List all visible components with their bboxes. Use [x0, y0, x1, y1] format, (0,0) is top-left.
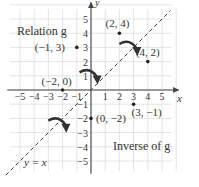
svg-text:−1: −1 — [77, 99, 88, 110]
svg-text:1: 1 — [83, 71, 88, 82]
inverse-of-g-label: Inverse of g — [113, 139, 170, 153]
svg-text:5: 5 — [160, 91, 165, 102]
svg-text:−2: −2 — [77, 113, 88, 124]
svg-text:−5: −5 — [77, 156, 88, 167]
svg-text:4: 4 — [145, 91, 150, 102]
svg-text:3: 3 — [131, 91, 136, 102]
svg-text:−5: −5 — [15, 91, 26, 102]
svg-text:−4: −4 — [29, 91, 40, 102]
svg-text:(3, −1): (3, −1) — [132, 106, 162, 119]
svg-text:−2: −2 — [57, 91, 68, 102]
svg-text:x: x — [176, 92, 182, 104]
svg-text:−4: −4 — [77, 142, 88, 153]
svg-text:2: 2 — [117, 91, 122, 102]
svg-text:(2, 4): (2, 4) — [105, 17, 129, 30]
svg-text:(−2, 0): (−2, 0) — [42, 75, 72, 88]
svg-text:−3: −3 — [43, 91, 54, 102]
svg-text:4: 4 — [83, 28, 88, 39]
svg-text:1: 1 — [103, 91, 108, 102]
y-equals-x-label: y = x — [23, 156, 47, 168]
relation-inverse-graph: xy −5−4−3−2−11234554321−1−2−3−4−5 (−1, 3… — [0, 0, 199, 187]
relation-g-label: Relation g — [17, 24, 67, 38]
svg-text:−3: −3 — [77, 128, 88, 139]
svg-text:(4, 2): (4, 2) — [136, 46, 160, 59]
svg-text:(0, −2): (0, −2) — [96, 112, 126, 125]
svg-text:3: 3 — [83, 42, 88, 53]
svg-text:(−1, 3): (−1, 3) — [35, 41, 65, 54]
svg-text:2: 2 — [83, 57, 88, 68]
svg-text:5: 5 — [83, 14, 88, 25]
svg-text:y: y — [94, 0, 100, 8]
